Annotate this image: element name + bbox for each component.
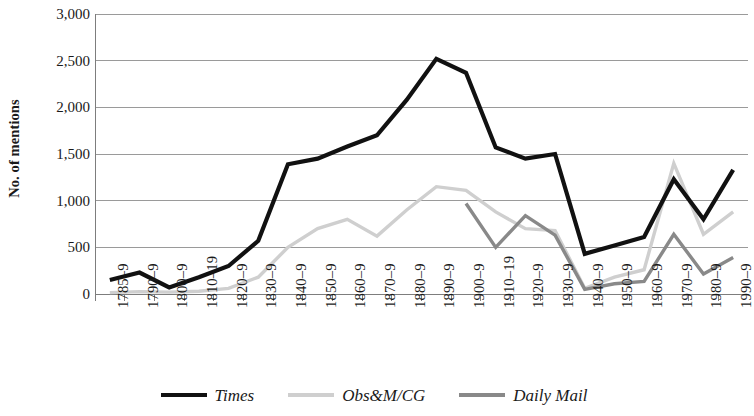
x-axis-tick-label: 1830–9 <box>264 263 279 308</box>
x-axis-tick-label: 1880–9 <box>413 263 428 308</box>
y-axis-tick-label: 0 <box>83 287 91 302</box>
legend-line-swatch <box>161 393 207 397</box>
legend-item[interactable]: Obs&M/CG <box>288 387 425 404</box>
x-axis-tick-label: 1950–9 <box>620 263 635 308</box>
x-axis-tick-label: 1920–9 <box>531 263 546 308</box>
chart-legend: TimesObs&M/CGDaily Mail <box>0 378 748 412</box>
legend-label: Times <box>215 387 255 404</box>
x-axis-tick-label: 1960–9 <box>650 263 665 308</box>
y-axis-tick-label: 1,500 <box>56 147 90 162</box>
y-axis-tick-label: 3,000 <box>56 7 90 22</box>
x-axis-tick-label: 1850–9 <box>324 263 339 308</box>
x-axis-tick-label: 1860–9 <box>353 263 368 308</box>
x-axis-tick-label: 1930–9 <box>561 263 576 308</box>
y-axis-tick-label: 500 <box>68 240 91 255</box>
x-axis-tick-label: 1790–9 <box>146 263 161 308</box>
x-axis-tick-labels: 1785–91790–91800–91810–191820–91830–9184… <box>95 300 748 380</box>
y-axis-tick-labels: 05001,0001,5002,0002,5003,000 <box>18 0 90 310</box>
x-axis-tick-label: 1970–9 <box>680 263 695 308</box>
x-axis-tick-label: 1940–9 <box>591 263 606 308</box>
legend-item[interactable]: Daily Mail <box>459 387 587 404</box>
legend-label: Obs&M/CG <box>342 387 425 404</box>
x-axis-tick-label: 1890–9 <box>442 263 457 308</box>
x-axis-tick-label: 1910–19 <box>502 256 517 308</box>
x-axis-tick-label: 1785–9 <box>116 263 131 308</box>
x-axis-tick-label: 1800–9 <box>175 263 190 308</box>
y-axis-tick-label: 2,000 <box>56 100 90 115</box>
series-line <box>110 59 733 288</box>
x-axis-tick-label: 1990–9 <box>739 263 754 308</box>
x-axis-tick-label: 1820–9 <box>235 263 250 308</box>
x-axis-tick-label: 1810–19 <box>205 256 220 308</box>
legend-line-swatch <box>288 393 334 397</box>
legend-item[interactable]: Times <box>161 387 255 404</box>
y-axis-tick-label: 2,500 <box>56 54 90 69</box>
x-axis-tick-label: 1980–9 <box>709 263 724 308</box>
x-axis-tick-label: 1840–9 <box>294 263 309 308</box>
legend-line-swatch <box>459 393 505 397</box>
x-axis-tick-label: 1870–9 <box>383 263 398 308</box>
y-axis-tick-label: 1,000 <box>56 194 90 209</box>
legend-label: Daily Mail <box>513 387 587 404</box>
x-axis-tick-label: 1900–9 <box>472 263 487 308</box>
